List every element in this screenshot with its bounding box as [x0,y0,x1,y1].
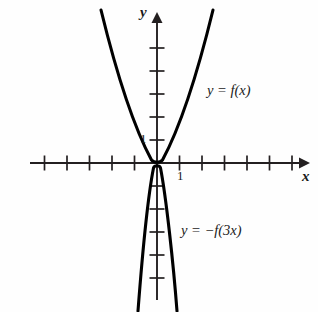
x-axis-label: x [302,169,310,184]
y-axis-label: y [140,5,147,20]
x-axis [30,156,310,171]
curve-label-neg-f-of-3x: y = −f(3x) [181,223,242,238]
x-axis-unit-label: 1 [177,169,184,182]
y-axis-arrow-icon [152,12,163,23]
y-axis-unit-label: 1 [140,132,147,145]
x-axis-arrow-icon [299,158,310,169]
graph-figure: y x 1 1 y = f(x) y = −f(3x) [0,0,318,312]
coordinate-plot [0,0,318,312]
curve-label-f-of-x: y = f(x) [207,83,251,98]
y-axis [150,12,165,300]
